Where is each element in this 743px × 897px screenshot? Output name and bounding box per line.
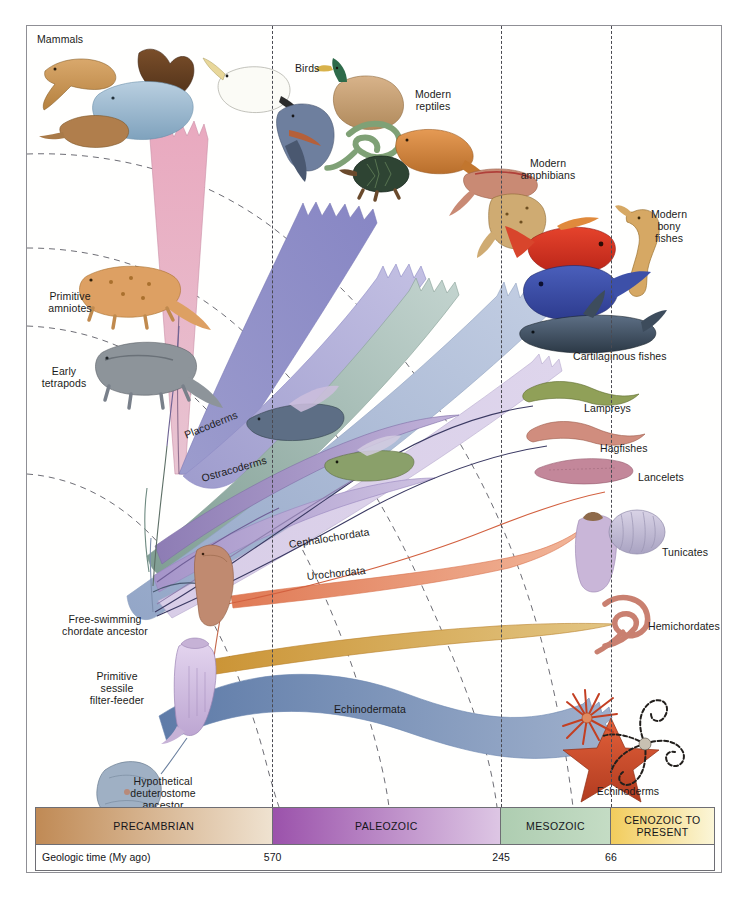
era-boundary-tick-66 [611,26,612,807]
geologic-time-axis: Geologic time (My ago) 570 245 66 [35,845,715,871]
taxa-label-modern-amphibians: Modern amphibians [507,158,589,182]
taxa-label-filter-feeder: Primitive sessile filter-feeder [71,671,163,706]
era-boundary-tick-245 [501,26,502,807]
taxa-label-lampreys: Lampreys [584,403,631,415]
taxa-label-modern-bony-fishes: Modern bony fishes [641,209,697,244]
taxa-label-primitive-amniotes: Primitive amniotes [33,291,107,315]
taxa-label-echinoderms: Echinoderms [579,786,677,798]
time-tick-66: 66 [605,851,617,863]
illustration-filter-feeder [161,638,216,744]
era-paleozoic: PALEOZOIC [273,808,501,844]
illustration-ostracoderm [325,436,414,482]
era-mesozoic: MESOZOIC [501,808,611,844]
taxa-label-chordate-ancestor: Free-swimming chordate ancestor [45,614,165,638]
taxa-label-early-tetrapods: Early tetrapods [29,366,99,390]
illustration-acorn-worm [597,598,648,652]
illustration-tunicate-colonial [609,510,665,554]
illustration-chordate-ancestor [194,545,233,626]
illustration-kingfisher [277,104,335,182]
geologic-timescale-bar: PRECAMBRIAN PALEOZOIC MESOZOIC CENOZOIC … [35,807,715,845]
phylogeny-canvas: Mammals Birds Modern reptiles Modern amp… [27,26,723,874]
taxa-label-birds: Birds [295,63,319,75]
illustration-turtle [339,156,409,200]
taxa-label-modern-reptiles: Modern reptiles [401,89,465,113]
illustration-placoderm [247,386,344,441]
era-cenozoic: CENOZOIC TO PRESENT [611,808,714,844]
time-tick-245: 245 [492,851,510,863]
illustration-early-tetrapod [96,342,224,408]
taxa-label-echinodermata: Echinodermata [334,704,406,716]
illustration-shrew [39,116,129,148]
taxa-label-tunicates: Tunicates [662,547,708,559]
taxa-label-hagfishes: Hagfishes [600,443,648,455]
taxa-label-hemichordates: Hemichordates [648,621,720,633]
time-tick-570: 570 [264,851,282,863]
taxa-label-lancelets: Lancelets [638,472,684,484]
era-precambrian: PRECAMBRIAN [36,808,273,844]
time-axis-title: Geologic time (My ago) [42,851,151,863]
figure-frame: Mammals Birds Modern reptiles Modern amp… [26,25,722,873]
illustration-lancelet [535,459,633,484]
era-boundary-tick-570 [272,26,273,807]
taxa-label-cartilaginous-fishes: Cartilaginous fishes [573,351,667,363]
taxa-label-mammals: Mammals [37,34,83,46]
